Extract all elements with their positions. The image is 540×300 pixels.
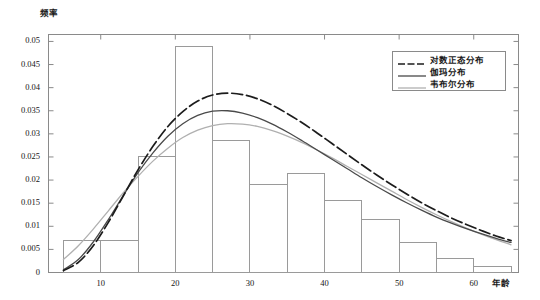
legend-entry: 韦布尔分布	[397, 78, 475, 90]
legend-label: 对数正态分布	[430, 55, 484, 65]
legend-label: 伽玛分布	[430, 67, 466, 77]
y-tick-label: 0.035	[4, 105, 40, 115]
x-tick-label: 40	[310, 278, 340, 288]
legend-entry: 伽玛分布	[397, 66, 466, 78]
y-tick-label: 0	[4, 267, 40, 277]
y-tick-label: 0.015	[4, 197, 40, 207]
histogram-bar	[138, 157, 175, 273]
y-tick-label: 0.03	[4, 128, 40, 138]
histogram-bar	[325, 201, 362, 273]
y-tick-label: 0.05	[4, 35, 40, 45]
y-tick-label: 0.01	[4, 220, 40, 230]
histogram-bar	[436, 259, 473, 273]
histogram-bar	[213, 141, 250, 273]
x-tick-label: 10	[86, 278, 116, 288]
y-tick-label: 0.02	[4, 174, 40, 184]
x-tick-label: 20	[160, 278, 190, 288]
histogram-bar	[175, 46, 212, 272]
distribution-fit-chart: 频率 年龄 00.0050.010.0150.020.0250.030.0350…	[0, 0, 540, 300]
y-tick-label: 0.025	[4, 151, 40, 161]
histogram-bar	[362, 219, 399, 272]
histogram-bar	[250, 185, 287, 273]
y-axis-title: 频率	[40, 6, 58, 18]
x-tick-label: 50	[384, 278, 414, 288]
histogram-bar	[101, 240, 138, 272]
histogram-bar	[287, 173, 324, 272]
plot-canvas	[0, 0, 540, 300]
legend-label: 韦布尔分布	[430, 79, 475, 89]
x-tick-label: 60	[459, 278, 489, 288]
chart-legend: 对数正态分布伽玛分布韦布尔分布	[392, 51, 506, 91]
y-tick-label: 0.04	[4, 82, 40, 92]
legend-line-swatch	[397, 55, 427, 65]
histogram-bar	[474, 267, 511, 273]
legend-line-swatch	[397, 79, 427, 89]
y-tick-label: 0.045	[4, 59, 40, 69]
legend-entry: 对数正态分布	[397, 54, 484, 66]
legend-line-swatch	[397, 67, 427, 77]
x-axis-title: 年龄	[492, 276, 510, 288]
x-tick-label: 30	[235, 278, 265, 288]
histogram-bar	[399, 242, 436, 272]
y-tick-label: 0.005	[4, 243, 40, 253]
